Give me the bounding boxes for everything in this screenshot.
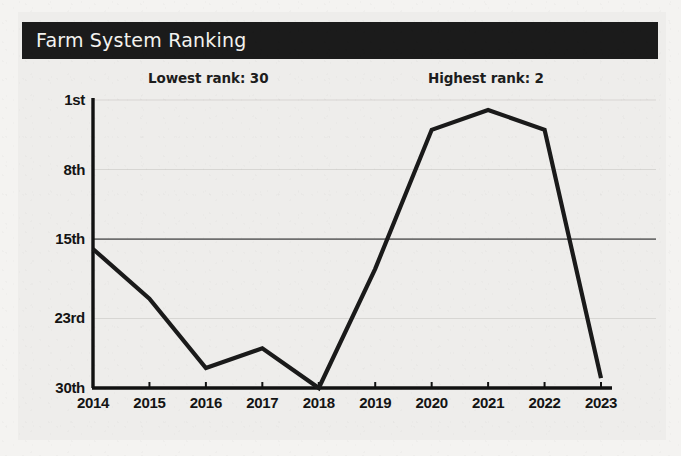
- y-axis-label-15th: 15th: [31, 230, 85, 247]
- line-chart-plot: [0, 0, 681, 456]
- x-axis-label-2016: 2016: [176, 394, 236, 411]
- x-axis-label-2023: 2023: [571, 394, 631, 411]
- data-series-line: [93, 110, 601, 388]
- x-axis-label-2017: 2017: [232, 394, 292, 411]
- x-axis-label-2020: 2020: [402, 394, 462, 411]
- x-axis-label-2015: 2015: [119, 394, 179, 411]
- y-axis-label-23rd: 23rd: [31, 309, 85, 326]
- x-axis-label-2019: 2019: [345, 394, 405, 411]
- series-farm-system-ranking: [93, 110, 601, 388]
- gridlines: [93, 100, 656, 318]
- x-axis-label-2021: 2021: [458, 394, 518, 411]
- y-axis-label-1st: 1st: [31, 91, 85, 108]
- x-axis-label-2014: 2014: [63, 394, 123, 411]
- axes: [92, 98, 612, 388]
- scanned-page: Farm System Ranking Lowest rank: 30 High…: [0, 0, 681, 456]
- x-axis-label-2022: 2022: [515, 394, 575, 411]
- y-axis-label-8th: 8th: [31, 161, 85, 178]
- x-axis-label-2018: 2018: [289, 394, 349, 411]
